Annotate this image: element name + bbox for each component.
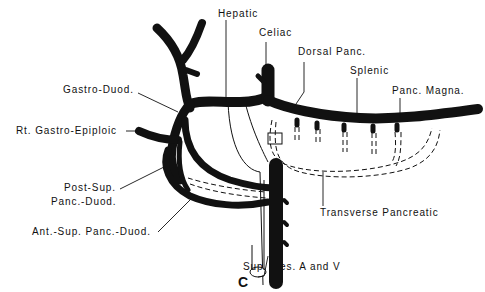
label-post-sup-line1: Post-Sup. (64, 182, 116, 193)
label-celiac: Celiac (259, 27, 292, 38)
label-post-sup-line2: Panc.-Duod. (51, 196, 117, 207)
leader-gastro-duod (138, 93, 178, 112)
gastric-branch-upper (183, 23, 202, 60)
anatomy-diagram: Hepatic Celiac Dorsal Panc. Splenic Panc… (0, 0, 485, 292)
dashed-branch-4 (372, 133, 376, 154)
pancreas-outline (245, 102, 268, 162)
hepatic-artery (190, 96, 268, 104)
anterior-arcade (185, 120, 275, 188)
gastric-stub (186, 70, 197, 74)
sma-outline-left (228, 102, 263, 285)
panel-letter: C (238, 274, 248, 290)
label-rt-gastro-epiploic: Rt. Gastro-Epiploic (16, 125, 117, 136)
dashed-branch-1 (295, 127, 299, 142)
transverse-pancreatic-upper (270, 120, 432, 171)
leader-dorsal-panc (292, 62, 304, 110)
label-hepatic: Hepatic (218, 8, 258, 19)
dashed-branch-3 (343, 132, 347, 152)
splenic-artery (268, 100, 478, 118)
leader-post-sup (120, 167, 164, 189)
label-panc-magna: Panc. Magna. (392, 85, 465, 96)
dashed-branch-2 (316, 129, 320, 145)
label-gastro-duod: Gastro-Duod. (63, 84, 134, 95)
dashed-branch-5 (392, 132, 401, 166)
label-dorsal-panc: Dorsal Panc. (298, 46, 366, 57)
label-sup-mes: Sup. Mes. A and V (243, 261, 341, 272)
vessel-drawing (0, 0, 485, 292)
label-transverse-pancreatic: Transverse Pancreatic (320, 207, 439, 218)
leader-ant-sup (158, 195, 195, 232)
label-ant-sup-panc-duod: Ant.-Sup. Panc.-Duod. (32, 226, 151, 237)
label-splenic: Splenic (350, 65, 389, 76)
vein-tributaries (284, 200, 287, 245)
